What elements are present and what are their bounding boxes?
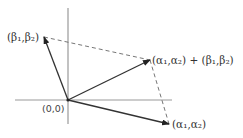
label-origin: (0,0) [42,103,65,114]
vector-addition-diagram: (β₁,β₂) (α₁,α₂) + (β₁,β₂) (0,0) (α₁,α₂) [0,0,243,138]
dashed-beta-to-sum [44,37,150,60]
label-alpha: (α₁,α₂) [172,118,206,130]
origin-point [66,98,69,101]
vector-alpha [68,100,169,124]
dashed-sum-to-alpha [150,60,169,124]
vector-beta [44,37,68,100]
label-beta: (β₁,β₂) [7,31,39,43]
vector-sum [68,60,150,100]
label-sum: (α₁,α₂) + (β₁,β₂) [152,54,234,66]
